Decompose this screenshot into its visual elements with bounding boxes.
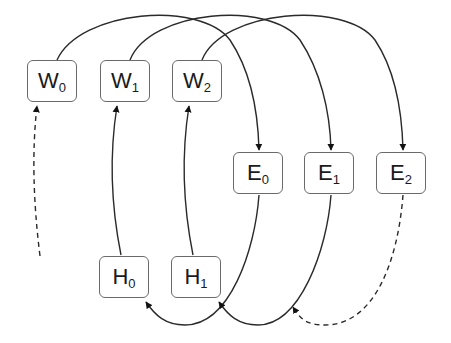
node-subscript: 2 [405,172,412,187]
edge-w2-e2 [202,15,403,150]
node-w2: W2 [172,60,222,102]
node-w1: W1 [100,60,150,102]
node-e1: E1 [304,152,354,194]
node-subscript: 2 [204,80,211,95]
node-w0: W0 [27,60,77,102]
node-label: E [390,160,404,186]
edge-h0-w1 [112,106,121,255]
edge-w1-e1 [130,15,331,150]
node-subscript: 0 [128,276,135,291]
node-label: W [183,68,203,94]
node-label: E [318,160,332,186]
node-label: W [111,68,131,94]
edge-e1-h1 [219,195,331,325]
node-subscript: 1 [132,80,139,95]
node-h0: H0 [99,256,149,298]
node-subscript: 0 [59,80,66,95]
edge-h1-w2 [184,106,193,255]
edge-e2-h1-dashed [293,195,403,325]
node-label: W [38,68,58,94]
node-h1: H1 [171,256,221,298]
edge-in-w0-dashed [34,106,40,256]
node-label: H [112,264,127,290]
edge-w0-e0 [57,15,259,150]
node-subscript: 1 [333,172,340,187]
node-e0: E0 [233,152,283,194]
node-subscript: 0 [262,172,269,187]
node-label: H [184,264,199,290]
node-subscript: 1 [200,276,207,291]
node-label: E [247,160,261,186]
node-e2: E2 [376,152,426,194]
